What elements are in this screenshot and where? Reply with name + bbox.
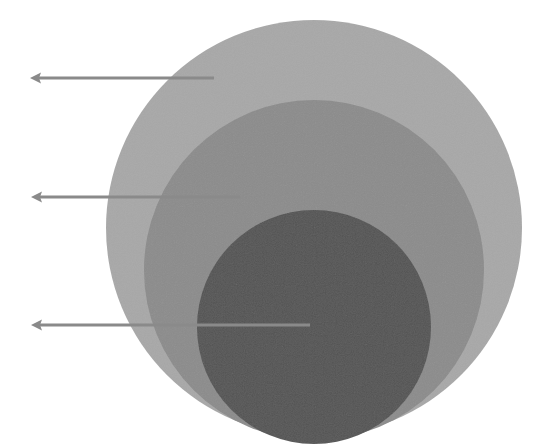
diagram-canvas bbox=[0, 0, 540, 447]
circles-layer bbox=[106, 20, 522, 444]
nested-circles-diagram bbox=[0, 0, 540, 447]
inner-circle bbox=[197, 210, 431, 444]
